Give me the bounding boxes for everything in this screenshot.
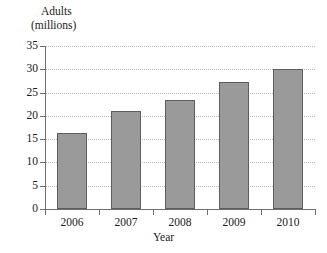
x-tick-label-2010: 2010 [263,216,313,229]
x-axis-line [45,209,316,210]
x-tick-label-2008: 2008 [155,216,205,229]
x-tick-mark-1 [99,209,100,215]
bar-2006 [57,133,87,209]
y-tick-label-0: 0 [0,203,45,215]
x-tick-mark-4 [261,209,262,215]
x-tick-mark-0 [45,209,46,215]
y-tick-label-10: 10 [0,156,45,168]
plot-area [45,46,315,209]
x-tick-mark-5 [315,209,316,215]
x-tick-label-2009: 2009 [209,216,259,229]
y-tick-label-15: 15 [0,133,45,145]
x-axis-title: Year [0,231,327,244]
bar-2008 [165,100,195,209]
bar-2009 [219,82,249,209]
y-tick-label-20: 20 [0,110,45,122]
y-tick-label-5: 5 [0,180,45,192]
x-tick-label-2006: 2006 [47,216,97,229]
y-tick-label-30: 30 [0,63,45,75]
y-axis-line [45,46,46,210]
x-tick-mark-3 [207,209,208,215]
bar-2010 [273,69,303,209]
y-tick-label-25: 25 [0,87,45,99]
gridline-35 [45,46,315,47]
x-tick-mark-2 [153,209,154,215]
y-axis-ticks: 05101520253035 [0,0,45,253]
y-tick-label-35: 35 [0,40,45,52]
x-tick-label-2007: 2007 [101,216,151,229]
bar-chart-figure: Adults (millions) 05101520253035 2006200… [0,0,327,253]
bar-2007 [111,111,141,209]
